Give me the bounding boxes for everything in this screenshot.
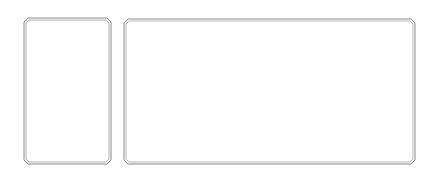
left-panel-frame [23,17,112,165]
right-panel-frame [123,18,416,165]
right-panel [123,18,416,165]
left-panel [23,17,112,165]
